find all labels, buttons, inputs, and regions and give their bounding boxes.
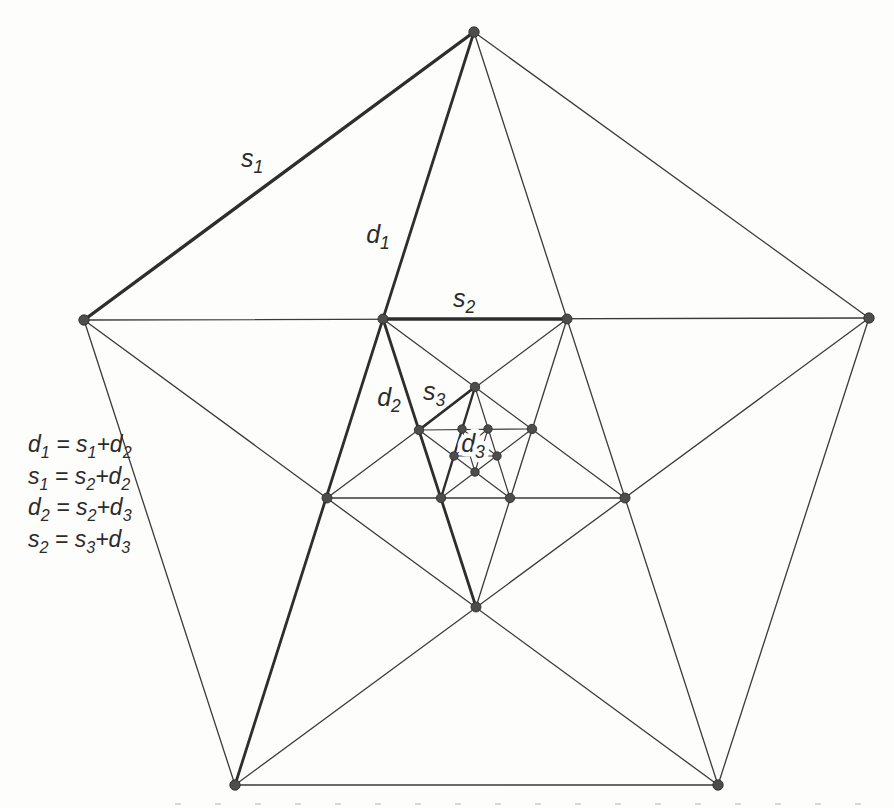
- vertex-d3-dot: [436, 493, 445, 502]
- vertex-e2-dot: [378, 314, 388, 324]
- side-right-bottomright: [718, 318, 869, 785]
- equation-line-4: s2 = s3+d3: [28, 526, 130, 556]
- diagonal-left-bottomright: [84, 320, 718, 785]
- s1-segment: [84, 32, 474, 320]
- vertex-a3-dot: [470, 382, 479, 391]
- vertex-b2-dot: [620, 493, 630, 503]
- vertex-l4-upper-right-dot: [484, 425, 492, 433]
- label-s3: s3: [423, 377, 446, 410]
- vertex-l4-bottom-dot: [471, 468, 479, 476]
- vertex-bottom-right-dot: [713, 780, 723, 790]
- vertex-left-dot: [79, 315, 89, 325]
- label-d2: d2: [377, 383, 401, 416]
- diagonal-right-bottomleft: [235, 318, 869, 785]
- equation-line-3: d2 = s2+d3: [28, 494, 132, 524]
- vertex-c3-dot: [505, 493, 514, 502]
- equation-line-1: d1 = s1+d2: [28, 431, 132, 461]
- vertex-e3-dot: [414, 425, 423, 434]
- l3-diagonal-b3-d3: [441, 429, 532, 498]
- l3-diagonal-e3-b3: [419, 429, 532, 430]
- vertex-l4-right-dot: [493, 452, 501, 460]
- vertex-right-dot: [864, 313, 874, 323]
- label-d1: d1: [366, 220, 390, 253]
- d2-segment: [383, 319, 476, 607]
- equation-line-2: s1 = s2+d2: [28, 463, 130, 493]
- l2-diagonal-e2-b2: [383, 319, 625, 498]
- diagonal-top-bottomright: [474, 32, 718, 785]
- label-s2: s2: [453, 284, 476, 317]
- vertex-a2-dot: [562, 314, 572, 324]
- vertex-l4-left-dot: [450, 452, 458, 460]
- vertex-b3-dot: [527, 424, 536, 433]
- side-bottomleft-left: [84, 320, 235, 785]
- vertex-c2-dot: [471, 602, 481, 612]
- side-top-right: [474, 32, 869, 318]
- l2-diagonal-a2-c2: [476, 319, 567, 607]
- vertex-bottom-left-dot: [230, 780, 240, 790]
- figure-page: s1d1s2d2s3d3d1 = s1+d2s1 = s2+d2d2 = s2+…: [0, 0, 894, 808]
- label-s1: s1: [241, 144, 263, 177]
- pentagon-diagram: s1d1s2d2s3d3d1 = s1+d2s1 = s2+d2d2 = s2+…: [0, 0, 894, 808]
- vertex-top-dot: [469, 27, 479, 37]
- vertex-d2-dot: [322, 493, 332, 503]
